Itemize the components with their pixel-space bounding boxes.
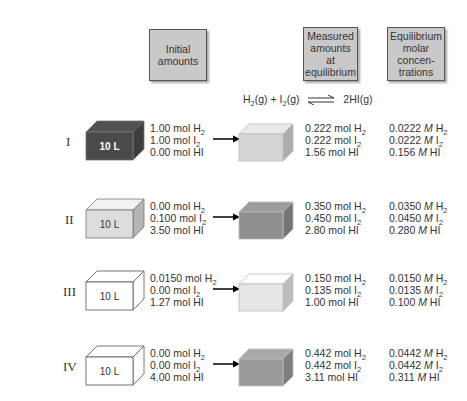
initial-amount-line: 3.50 mol HI [150,224,206,236]
equilibrium-container-box [238,123,294,162]
measured-amount-line: 0.150 mol H2 [305,272,366,284]
initial-amount-line: 4.00 mol HI [150,371,205,383]
subscript: 2 [362,353,366,362]
equilibrium-concentration-line: 0.0222 M I2 [389,134,447,146]
subscript: 2 [443,353,447,362]
equilibrium-container-box [238,348,294,387]
initial-container-box: 10 L [85,270,145,311]
equilibrium-concentration-line: 0.0450 M I2 [389,212,447,224]
molarity-unit: M [424,272,433,284]
equilibrium-container-box [238,201,294,240]
initial-amount-line: 0.00 mol H2 [150,347,205,359]
header-equilibrium-concentrations: Equilibrium molar concen- trations [387,27,445,81]
initial-amount-list: 0.00 mol H20.100 mol I23.50 mol HI [150,200,206,236]
equilibrium-concentration-list: 0.0222 M H20.0222 M I20.156 M HI [389,122,447,158]
amount: 1.00 mol HI [305,296,359,308]
species: H [433,122,444,134]
subscript: 2 [443,128,447,137]
value: 0.100 [389,296,418,308]
box-front-face [239,134,283,161]
initial-amount-line: 0.00 mol I2 [150,359,205,371]
species: HI [427,146,440,158]
equilibrium-concentration-line: 0.280 M HI [389,224,447,236]
value: 0.311 [389,371,417,383]
equilibrium-concentration-line: 0.156 M HI [389,146,447,158]
initial-amount-list: 0.00 mol H20.00 mol I24.00 mol HI [150,347,205,383]
measured-amount-line: 0.222 mol H2 [305,122,366,134]
amount: 0.222 mol I [305,134,357,146]
amount: 0.00 mol H [150,347,201,359]
header-initial-amounts: Initial amounts [149,29,207,81]
amount: 0.00 mol HI [150,146,204,158]
value: 0.0450 [389,212,424,224]
species: HI [426,371,439,383]
measured-amount-line: 0.222 mol I2 [305,134,366,146]
volume-label: 10 L [100,291,120,302]
amount: 0.450 mol I [305,212,357,224]
measured-amount-list: 0.442 mol H20.442 mol I23.11 mol HI [305,347,366,383]
amount: 0.00 mol H [150,200,201,212]
equilibrium-concentration-list: 0.0350 M H20.0450 M I20.280 M HI [389,200,447,236]
initial-container-box: 10 L [85,198,145,239]
value: 0.0222 [389,134,424,146]
initial-amount-line: 0.00 mol H2 [150,200,206,212]
equilibrium-concentration-line: 0.100 M HI [389,296,447,308]
subscript: 2 [443,206,447,215]
equilibrium-concentration-line: 0.0442 M H2 [389,347,447,359]
subscript: 2 [362,128,366,137]
species: H [433,272,444,284]
amount: 0.150 mol H [305,272,362,284]
reaction-equation: H2(g) + I2(g) 2HI(g) [243,93,373,108]
equilibrium-container-box [238,273,294,312]
state: (g) [360,93,373,105]
equilibrium-concentration-line: 0.311 M HI [389,371,447,383]
molarity-unit: M [424,122,433,134]
value: 0.0135 [389,284,424,296]
measured-amount-list: 0.222 mol H20.222 mol I21.56 mol HI [305,122,366,158]
state: (g) [287,93,300,105]
equilibrium-arrows-icon [306,95,336,105]
molarity-unit: M [424,347,433,359]
initial-amount-line: 0.100 mol I2 [150,212,206,224]
header-measured-amounts: Measured amounts at equilibrium [303,27,358,81]
amount: 1.00 mol H [150,122,201,134]
box-front-face [239,359,283,386]
equilibrium-concentration-line: 0.0350 M H2 [389,200,447,212]
initial-amount-list: 1.00 mol H21.00 mol I20.00 mol HI [150,122,205,158]
value: 0.0350 [389,200,424,212]
measured-amount-line: 2.80 mol HI [305,224,366,236]
molarity-unit: M [424,212,433,224]
molarity-unit: M [417,371,426,383]
amount: 0.00 mol I [150,359,196,371]
measured-amount-line: 3.11 mol HI [305,371,366,383]
plus-sign: + [268,93,280,105]
initial-amount-line: 1.00 mol H2 [150,122,205,134]
value: 0.280 [389,224,418,236]
species: H [433,200,444,212]
value: 0.0222 [389,122,424,134]
value: 0.0150 [389,272,424,284]
experiment-label: IV [63,359,77,375]
molarity-unit: M [424,359,433,371]
initial-amount-line: 1.27 mol HI [150,296,217,308]
initial-amount-line: 1.00 mol I2 [150,134,205,146]
amount: 2.80 mol HI [305,224,359,236]
amount: 0.100 mol I [150,212,202,224]
subscript: 2 [201,128,205,137]
box-front-face [239,284,283,311]
molarity-unit: M [424,284,433,296]
amount: 0.350 mol H [305,200,362,212]
measured-amount-line: 0.442 mol I2 [305,359,366,371]
value: 0.156 [389,146,418,158]
initial-amount-line: 0.0150 mol H2 [150,272,217,284]
species: HI [427,296,440,308]
amount: 1.27 mol HI [150,296,204,308]
molarity-unit: M [418,146,427,158]
measured-amount-line: 1.00 mol HI [305,296,366,308]
initial-container-box: 10 L [85,345,145,386]
amount: 1.00 mol I [150,134,196,146]
species: H [433,347,444,359]
amount: 0.442 mol H [305,347,362,359]
equilibrium-concentration-line: 0.0442 M I2 [389,359,447,371]
volume-label: 10 L [100,219,120,230]
